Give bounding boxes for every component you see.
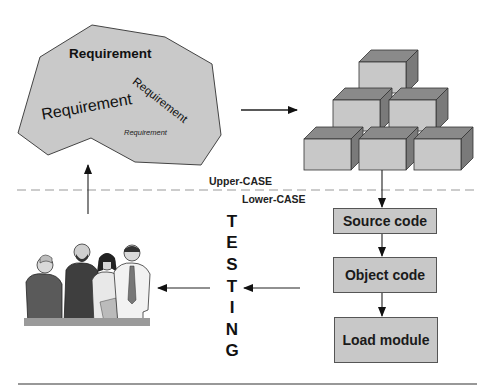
lower-case-label: Lower-CASE bbox=[242, 193, 306, 205]
load-module-box: Load module bbox=[334, 317, 438, 363]
testing-letter: S bbox=[224, 255, 240, 275]
object-code-box: Object code bbox=[333, 257, 437, 293]
case-diagram: Requirement Requirement Requirement Requ… bbox=[0, 0, 492, 391]
stacked-cubes-icon bbox=[304, 50, 473, 170]
testing-letter: I bbox=[224, 298, 240, 318]
requirement-label-small: Requirement bbox=[124, 128, 167, 137]
source-code-box: Source code bbox=[333, 208, 437, 234]
users-group-icon bbox=[24, 244, 150, 326]
testing-letter: G bbox=[224, 341, 240, 361]
testing-letter: T bbox=[224, 212, 240, 232]
upper-case-label: Upper-CASE bbox=[209, 175, 272, 187]
testing-letter: T bbox=[224, 277, 240, 297]
testing-letter: N bbox=[224, 320, 240, 340]
requirement-label-bold: Requirement bbox=[69, 46, 152, 61]
testing-letter: E bbox=[224, 233, 240, 253]
